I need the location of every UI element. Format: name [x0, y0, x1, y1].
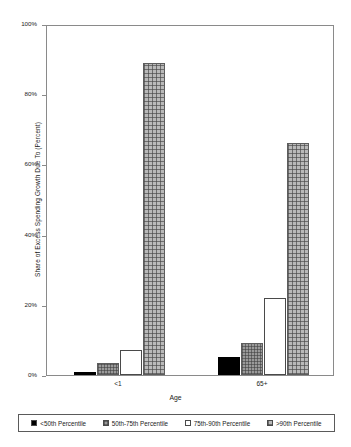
x-tick-label: <1	[46, 380, 190, 387]
y-tick-label: 80%	[25, 90, 37, 97]
plot-inner	[47, 26, 333, 375]
chart-root: Share of Excess Spending Growth Due To (…	[0, 0, 351, 447]
legend-label: >90th Percentile	[276, 420, 322, 427]
legend-swatch-icon	[31, 420, 37, 426]
bar	[74, 372, 96, 376]
legend-swatch-icon	[103, 420, 109, 426]
bar	[97, 363, 119, 375]
legend-label: 50th-75th Percentile	[112, 420, 168, 427]
chart-legend: <50th Percentile50th-75th Percentile75th…	[18, 414, 335, 432]
bar	[264, 298, 286, 375]
legend-label: 75th-90th Percentile	[194, 420, 250, 427]
bar	[287, 143, 309, 375]
bar	[218, 357, 240, 375]
legend-item[interactable]: >90th Percentile	[267, 420, 322, 427]
bar	[143, 63, 165, 375]
x-tick-label: 65+	[190, 380, 334, 387]
legend-swatch-icon	[267, 420, 273, 426]
x-axis-title: Age	[0, 394, 351, 401]
legend-item[interactable]: 75th-90th Percentile	[185, 420, 250, 427]
y-tick-label: 100%	[21, 20, 37, 27]
bar-group	[191, 26, 335, 375]
y-tick-label: 20%	[25, 301, 37, 308]
y-tick-label: 0%	[28, 371, 37, 378]
y-tick-mark	[42, 376, 46, 377]
bar	[241, 343, 263, 375]
legend-item[interactable]: <50th Percentile	[31, 420, 86, 427]
bar-group	[47, 26, 191, 375]
y-axis-title: Share of Excess Spending Growth Due To (…	[34, 80, 41, 320]
y-tick-label: 40%	[25, 231, 37, 238]
plot-area	[46, 25, 334, 376]
legend-label: <50th Percentile	[40, 420, 86, 427]
legend-swatch-icon	[185, 420, 191, 426]
legend-item[interactable]: 50th-75th Percentile	[103, 420, 168, 427]
y-tick-label: 60%	[25, 160, 37, 167]
bar	[120, 350, 142, 375]
